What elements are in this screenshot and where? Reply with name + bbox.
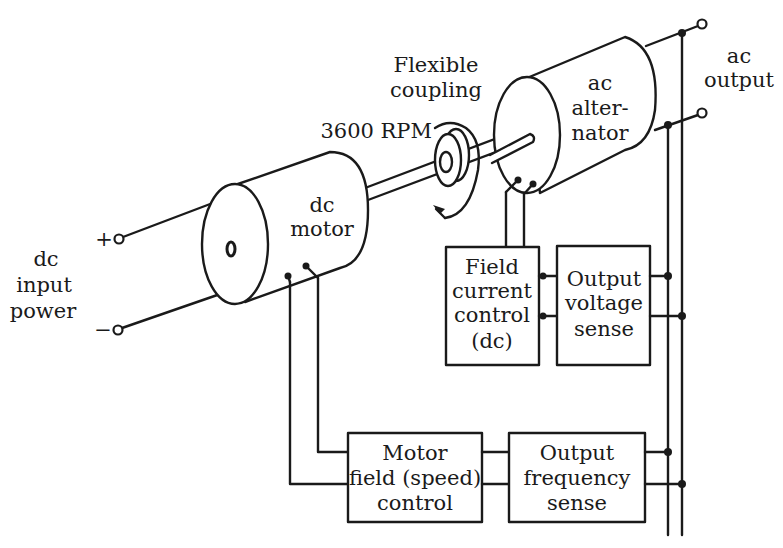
svg-text:motor: motor bbox=[290, 217, 355, 241]
ac-output-terminal-1 bbox=[698, 20, 707, 29]
svg-text:ac: ac bbox=[588, 71, 612, 95]
motor-field-control-block: Motor field (speed) control bbox=[348, 433, 482, 522]
svg-text:dc: dc bbox=[33, 247, 58, 271]
svg-text:alter-: alter- bbox=[571, 96, 628, 120]
output-frequency-sense-block: Output frequency sense bbox=[509, 433, 686, 522]
svg-text:sense: sense bbox=[574, 317, 634, 341]
ac-output-terminal-2 bbox=[698, 109, 707, 118]
svg-text:nator: nator bbox=[571, 121, 629, 145]
svg-text:Output: Output bbox=[540, 441, 615, 465]
plus-sign: + bbox=[95, 227, 113, 251]
svg-text:(dc): (dc) bbox=[471, 329, 513, 353]
svg-text:control: control bbox=[377, 491, 453, 515]
minus-terminal bbox=[114, 326, 123, 335]
svg-text:Output: Output bbox=[567, 267, 642, 291]
svg-text:coupling: coupling bbox=[390, 78, 482, 102]
svg-text:power: power bbox=[10, 299, 77, 323]
ac-alternator: ac alter- nator bbox=[490, 37, 656, 194]
frequency-feedback-links bbox=[482, 452, 509, 484]
arrow-left-icon bbox=[540, 313, 547, 320]
rotation-arrow-icon bbox=[433, 205, 445, 214]
svg-text:voltage: voltage bbox=[564, 291, 643, 315]
plus-terminal bbox=[115, 235, 124, 244]
ac-output-label: ac output bbox=[704, 44, 775, 92]
svg-text:control: control bbox=[454, 303, 530, 327]
output-voltage-sense-block: Output voltage sense bbox=[557, 246, 686, 365]
svg-text:sense: sense bbox=[547, 491, 607, 515]
arrow-left-icon bbox=[540, 273, 547, 280]
svg-text:Motor: Motor bbox=[382, 441, 448, 465]
svg-text:Field: Field bbox=[465, 255, 519, 279]
svg-text:dc: dc bbox=[309, 193, 334, 217]
svg-text:current: current bbox=[452, 279, 532, 303]
svg-text:frequency: frequency bbox=[524, 466, 631, 490]
svg-text:input: input bbox=[16, 273, 72, 297]
rpm-label: 3600 RPM bbox=[320, 119, 432, 143]
minus-sign: − bbox=[94, 318, 112, 342]
dc-motor: dc motor bbox=[202, 152, 368, 304]
voltage-feedback-links bbox=[539, 273, 557, 320]
svg-text:output: output bbox=[704, 68, 775, 92]
motor-field-wiring bbox=[290, 278, 348, 484]
field-current-control-block: Field current control (dc) bbox=[446, 192, 539, 365]
svg-text:ac: ac bbox=[727, 44, 751, 68]
dc-input-label: dc input power bbox=[10, 247, 77, 323]
motor-generator-diagram: + − dc input power dc motor Flexible cou… bbox=[0, 0, 783, 548]
svg-text:Flexible: Flexible bbox=[394, 53, 479, 77]
flexible-coupling bbox=[433, 123, 479, 218]
svg-text:field (speed): field (speed) bbox=[349, 466, 481, 490]
